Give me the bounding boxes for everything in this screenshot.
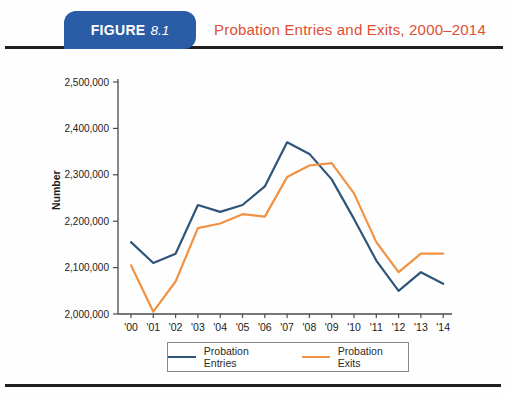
legend-item-exits: Probation Exits xyxy=(302,345,408,369)
y-axis-title: Number xyxy=(50,174,62,210)
legend: Probation Entries Probation Exits xyxy=(167,342,409,372)
x-tick-label: '07 xyxy=(280,321,294,333)
legend-label-exits: Probation Exits xyxy=(338,345,408,369)
figure-number: 8.1 xyxy=(150,23,169,38)
x-tick-label: '13 xyxy=(414,321,428,333)
y-tick-label: 2,500,000 xyxy=(65,77,110,88)
x-tick-label: '04 xyxy=(213,321,227,333)
legend-label-entries: Probation Entries xyxy=(204,345,284,369)
x-tick-label: '00 xyxy=(124,321,138,333)
y-tick-label: 2,400,000 xyxy=(65,123,110,134)
x-tick-label: '02 xyxy=(169,321,183,333)
x-tick-label: '01 xyxy=(146,321,160,333)
x-tick-label: '08 xyxy=(303,321,317,333)
entries-line-swatch xyxy=(168,356,196,358)
x-tick-label: '09 xyxy=(325,321,339,333)
figure-page: FIGURE 8.1 Probation Entries and Exits, … xyxy=(0,0,508,396)
x-tick-label: '11 xyxy=(370,321,383,333)
x-tick-label: '14 xyxy=(436,321,450,333)
x-tick-label: '06 xyxy=(258,321,272,333)
exits-line-swatch xyxy=(302,356,330,358)
y-tick-label: 2,200,000 xyxy=(65,216,110,227)
y-tick-label: 2,000,000 xyxy=(65,309,110,320)
footer-rule xyxy=(5,384,501,387)
line-chart: 2,000,0002,100,0002,200,0002,300,0002,40… xyxy=(0,0,508,340)
figure-number-tab: FIGURE 8.1 xyxy=(64,11,196,49)
y-tick-label: 2,100,000 xyxy=(65,262,110,273)
y-tick-label: 2,300,000 xyxy=(65,169,110,180)
x-tick-label: '03 xyxy=(191,321,205,333)
x-tick-label: '12 xyxy=(392,321,406,333)
legend-item-entries: Probation Entries xyxy=(168,345,284,369)
figure-label: FIGURE xyxy=(91,22,146,38)
x-tick-label: '05 xyxy=(236,321,250,333)
x-tick-label: '10 xyxy=(347,321,361,333)
